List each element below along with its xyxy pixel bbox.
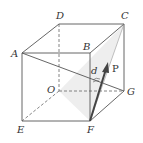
label-A: A <box>10 48 18 59</box>
cube-svg: D C A B O G E F d P <box>0 0 143 143</box>
label-E: E <box>16 124 25 135</box>
label-P: P <box>112 63 119 74</box>
edge-AD <box>22 24 59 53</box>
label-O: O <box>47 84 55 95</box>
label-F: F <box>86 124 95 135</box>
label-d: d <box>91 65 97 76</box>
label-D: D <box>55 10 64 21</box>
label-C: C <box>121 10 129 21</box>
label-G: G <box>127 86 135 97</box>
label-B: B <box>82 41 90 52</box>
cube-diagram: D C A B O G E F d P <box>0 0 143 143</box>
edge-OE <box>22 91 59 121</box>
